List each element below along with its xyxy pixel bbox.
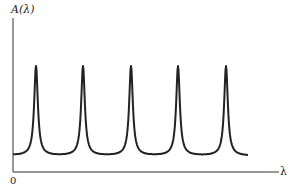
spectrum-curve	[13, 66, 248, 155]
spectrum-plot	[0, 0, 290, 190]
